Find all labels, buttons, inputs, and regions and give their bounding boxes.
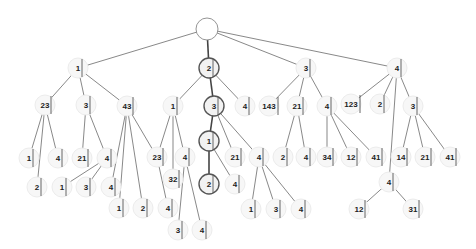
tree-node[interactable]: 3: [266, 199, 286, 219]
tree-root-node[interactable]: [196, 18, 218, 40]
tree-node[interactable]: 4: [101, 177, 121, 197]
node-label: 3: [304, 64, 309, 73]
tree-node[interactable]: 3: [76, 177, 96, 197]
node-label: 1: [117, 204, 122, 213]
tree-edge: [207, 29, 306, 68]
tree-node[interactable]: 2: [273, 147, 293, 167]
node-label: 1: [171, 102, 176, 111]
tree-node[interactable]: 12: [341, 147, 361, 167]
tree-node[interactable]: 4: [158, 198, 178, 218]
tree-node[interactable]: 1: [19, 148, 39, 168]
node-label: 3: [84, 183, 89, 192]
tree-node[interactable]: 2: [27, 177, 47, 197]
tree-node[interactable]: 1: [163, 96, 183, 116]
node-label: 4: [56, 154, 61, 163]
node-label: 21: [78, 154, 87, 163]
node-label: 4: [183, 153, 188, 162]
tree-edge: [78, 29, 207, 68]
tree-node[interactable]: 2: [199, 174, 219, 194]
node-label: 4: [200, 226, 205, 235]
node-label: 4: [304, 153, 309, 162]
tree-node[interactable]: 3: [204, 96, 224, 116]
node-label: 23: [153, 153, 162, 162]
node-label: 21: [231, 153, 240, 162]
tree-node[interactable]: 3: [296, 58, 316, 78]
tree-node[interactable]: 4: [249, 147, 269, 167]
node-label: 3: [212, 102, 217, 111]
node-label: 43: [123, 102, 132, 111]
tree-node[interactable]: 4: [175, 147, 195, 167]
node-label: 4: [233, 180, 238, 189]
tree-node[interactable]: 4: [387, 58, 407, 78]
tree-node[interactable]: 23: [35, 95, 55, 115]
node-label: 4: [325, 102, 330, 111]
tree-node[interactable]: 31: [403, 199, 423, 219]
node-label: 2: [207, 180, 212, 189]
node-label: 123: [344, 100, 358, 109]
tree-node[interactable]: 3: [76, 95, 96, 115]
tree-diagram: 1234233431341432141232314214213423432124…: [0, 0, 476, 249]
tree-node[interactable]: 123: [341, 94, 361, 114]
tree-node[interactable]: 21: [225, 147, 245, 167]
tree-node[interactable]: 4: [225, 174, 245, 194]
node-label: 4: [109, 183, 114, 192]
node-label: 4: [166, 204, 171, 213]
node-label: 4: [299, 205, 304, 214]
node-label: 32: [169, 175, 178, 184]
tree-node[interactable]: 4: [291, 199, 311, 219]
tree-node[interactable]: 32: [163, 169, 183, 189]
node-label: 41: [446, 153, 455, 162]
tree-node[interactable]: 2: [370, 94, 390, 114]
node-label: 1: [207, 137, 212, 146]
tree-node[interactable]: 41: [440, 147, 460, 167]
tree-node[interactable]: 21: [415, 147, 435, 167]
tree-node[interactable]: 143: [259, 96, 279, 116]
tree-node[interactable]: 3: [168, 220, 188, 240]
tree-node[interactable]: 4: [192, 220, 212, 240]
tree-edge: [178, 157, 185, 230]
node-label: 143: [262, 102, 276, 111]
tree-node[interactable]: 1: [241, 199, 261, 219]
tree-node[interactable]: 4: [235, 96, 255, 116]
tree-node[interactable]: 1: [68, 58, 88, 78]
tree-node[interactable]: 3: [403, 96, 423, 116]
node-label: 21: [421, 153, 430, 162]
node-label: 31: [409, 205, 418, 214]
node-label: 4: [243, 102, 248, 111]
tree-node[interactable]: 21: [72, 148, 92, 168]
tree-node[interactable]: 14: [391, 147, 411, 167]
tree-node[interactable]: 4: [48, 148, 68, 168]
tree-node[interactable]: 2: [199, 58, 219, 78]
node-label: 2: [281, 153, 286, 162]
node-label: 2: [378, 100, 383, 109]
node-label: 41: [372, 153, 381, 162]
node-label: 3: [274, 205, 279, 214]
tree-node[interactable]: 4: [97, 148, 117, 168]
tree-node[interactable]: 4: [296, 147, 316, 167]
tree-node[interactable]: 23: [147, 147, 167, 167]
tree-edge: [111, 106, 127, 187]
node-label: 2: [207, 64, 212, 73]
tree-node[interactable]: 41: [366, 147, 386, 167]
tree-node[interactable]: 12: [349, 199, 369, 219]
tree-edges: [29, 29, 450, 230]
tree-node[interactable]: 4: [317, 96, 337, 116]
node-label: 3: [176, 226, 181, 235]
node-label: 1: [60, 183, 65, 192]
tree-node[interactable]: 4: [379, 172, 399, 192]
node-label: 1: [27, 154, 32, 163]
tree-node[interactable]: 1: [199, 131, 219, 151]
tree-node[interactable]: 43: [117, 96, 137, 116]
node-label: 4: [257, 153, 262, 162]
node-label: 21: [293, 102, 302, 111]
tree-edge: [127, 106, 143, 208]
tree-node[interactable]: 2: [133, 198, 153, 218]
tree-node[interactable]: 21: [287, 96, 307, 116]
node-label: 14: [397, 153, 406, 162]
node-label: 4: [387, 178, 392, 187]
tree-node[interactable]: 1: [109, 198, 129, 218]
node-label: 2: [141, 204, 146, 213]
tree-node[interactable]: 1: [52, 177, 72, 197]
tree-node[interactable]: 34: [317, 147, 337, 167]
node-label: 1: [249, 205, 254, 214]
